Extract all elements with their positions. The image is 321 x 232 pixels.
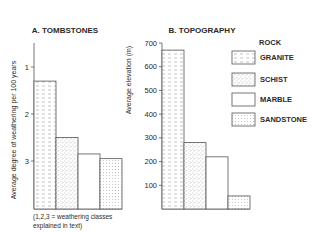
chart-b-tick-label: 100: [144, 181, 157, 190]
legend-swatch: [232, 93, 255, 106]
legend-swatch: [232, 51, 255, 64]
chart-b-y-axis-label: Average elevation (m): [125, 46, 133, 114]
chart-a-note-line-2: explained in text): [33, 222, 82, 230]
legend-label: MARBLE: [260, 95, 292, 104]
chart-a-bar-sandstone: [100, 159, 122, 209]
chart-a-y-axis-label: Average degree of weathering per 100 yea…: [10, 60, 18, 199]
legend-label: GRANITE: [260, 53, 294, 62]
figure: A. TOMBSTONES Average degree of weatheri…: [0, 0, 321, 232]
chart-b-bar-sandstone: [228, 196, 250, 209]
legend: ROCK GRANITESCHISTMARBLESANDSTONE: [232, 38, 307, 126]
chart-b-tick-label: 200: [144, 157, 157, 166]
legend-title: ROCK: [259, 38, 282, 47]
chart-a-tick-label: 3: [25, 157, 29, 166]
chart-b-tick-label: 300: [144, 133, 157, 142]
legend-swatch: [232, 113, 255, 126]
legend-swatch: [232, 73, 255, 86]
chart-a-tick-label: 2: [25, 110, 29, 119]
legend-item-schist: SCHIST: [232, 73, 288, 86]
legend-label: SANDSTONE: [260, 115, 307, 124]
chart-b-bar-schist: [184, 143, 206, 209]
chart-a-title: A. TOMBSTONES: [32, 26, 99, 35]
chart-a-bar-schist: [56, 138, 78, 210]
chart-tombstones: A. TOMBSTONES Average degree of weatheri…: [10, 26, 122, 230]
legend-item-sandstone: SANDSTONE: [232, 113, 307, 126]
chart-b-tick-label: 700: [144, 39, 157, 48]
chart-b-tick-label: 500: [144, 86, 157, 95]
chart-a-bars: [34, 81, 122, 209]
legend-item-granite: GRANITE: [232, 51, 294, 64]
chart-a-note-line-1: (1,2,3 = weathering classes: [33, 213, 113, 221]
chart-b-bar-granite: [162, 50, 184, 209]
chart-b-tick-label: 600: [144, 62, 157, 71]
chart-b-title: B. TOPOGRAPHY: [169, 26, 237, 35]
chart-a-tick-label: 1: [25, 63, 29, 72]
chart-topography: B. TOPOGRAPHY Average elevation (m) 1002…: [125, 26, 250, 209]
legend-item-marble: MARBLE: [232, 93, 292, 106]
chart-a-bar-granite: [34, 81, 56, 209]
chart-b-bar-marble: [206, 157, 228, 209]
chart-a-bar-marble: [78, 154, 100, 209]
legend-label: SCHIST: [260, 75, 288, 84]
chart-b-tick-label: 400: [144, 110, 157, 119]
